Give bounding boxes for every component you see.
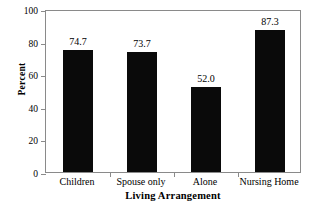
y-axis-tick: 0 [41, 174, 46, 175]
bar-value-label: 74.7 [69, 36, 87, 48]
y-axis-tick-label: 100 [24, 5, 38, 17]
x-axis-category-label: Children [45, 176, 109, 188]
bar-value-label: 52.0 [197, 73, 215, 85]
y-axis-tick: 100 [41, 11, 46, 12]
y-axis-tick: 60 [41, 76, 46, 77]
x-axis-category-label: Spouse only [109, 176, 173, 188]
y-axis-title: Percent [17, 31, 27, 127]
bar: 73.7 [127, 52, 157, 172]
bar-value-label: 87.3 [261, 16, 279, 28]
plot-area: 02040608010074.773.752.087.3 [45, 10, 301, 173]
y-axis-tick-label: 0 [33, 168, 38, 180]
y-axis-tick: 80 [41, 44, 46, 45]
y-axis-tick-label: 80 [29, 38, 39, 50]
bar-chart-figure: Percent 02040608010074.773.752.087.3 Liv… [0, 0, 313, 216]
y-axis-tick-label: 20 [29, 135, 39, 147]
bar: 87.3 [255, 30, 285, 172]
x-axis-title: Living Arrangement [45, 190, 301, 201]
y-axis-tick: 40 [41, 109, 46, 110]
bar-value-label: 73.7 [133, 38, 151, 50]
x-axis-category-label: Nursing Home [237, 176, 301, 188]
bar: 52.0 [191, 87, 221, 172]
y-axis-tick: 20 [41, 141, 46, 142]
x-axis-category-label: Alone [173, 176, 237, 188]
y-axis-tick-label: 40 [29, 103, 39, 115]
bar: 74.7 [63, 50, 93, 172]
y-axis-tick-label: 60 [29, 70, 39, 82]
